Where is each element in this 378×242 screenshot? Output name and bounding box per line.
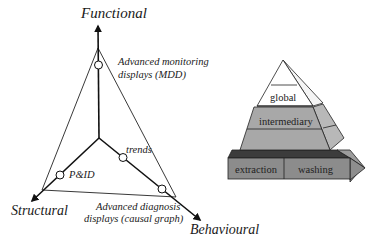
trends-label: trends bbox=[126, 144, 152, 155]
causal-label-line2: displays (causal graph) bbox=[84, 213, 184, 225]
pid-point bbox=[56, 171, 64, 179]
causal-label-line1: Advanced diagnosis bbox=[95, 201, 180, 212]
mdd-label-line2: displays (MDD) bbox=[118, 69, 186, 81]
causal-graph-point bbox=[158, 185, 166, 193]
behavioural-label: Behavioural bbox=[190, 222, 259, 237]
diagram-canvas: Functional Structural Behavioural Advanc… bbox=[0, 0, 378, 242]
structural-label: Structural bbox=[11, 203, 68, 218]
pyramid-intermediary-label: intermediary bbox=[259, 116, 313, 127]
pyramid-washing-label: washing bbox=[298, 164, 334, 175]
mdd-point bbox=[95, 61, 103, 69]
functional-axis bbox=[98, 26, 99, 138]
functional-label: Functional bbox=[80, 5, 147, 21]
mdd-label-line1: Advanced monitoring bbox=[117, 56, 209, 67]
pid-label: P&ID bbox=[68, 169, 95, 180]
pyramid-extraction-label: extraction bbox=[235, 164, 278, 175]
pyramid-global-label: global bbox=[270, 92, 296, 103]
